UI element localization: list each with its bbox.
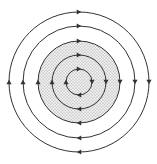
arrow-icon-top-1	[77, 9, 82, 14]
concentric-circles-diagram	[0, 0, 157, 164]
arrow-icon-bottom-1	[77, 149, 82, 154]
arrow-icon-left-1	[6, 80, 11, 85]
arrow-icon-top-2	[77, 23, 82, 28]
arrow-icon-left-2	[20, 80, 25, 85]
arrow-icon-right-2	[132, 80, 137, 85]
arrow-icon-right-1	[146, 80, 151, 85]
arrow-icon-bottom-2	[77, 135, 82, 140]
